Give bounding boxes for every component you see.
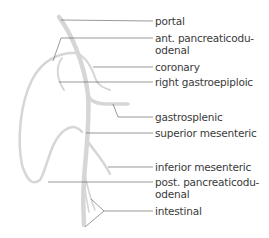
leader-lines — [48, 20, 153, 227]
intestinal-vessel-3 — [82, 180, 83, 215]
label-intestinal: intestinal — [155, 205, 202, 217]
label-ant-pancreaticoduodenal: ant. pancreaticodu- — [155, 32, 254, 44]
label-superior-mesenteric: superior mesenteric — [155, 127, 257, 139]
label-coronary: coronary — [155, 61, 200, 73]
leader-gastrosplenic — [113, 104, 153, 117]
leader-ant-pancreaticoduodenal — [53, 38, 153, 61]
inferior-mesenteric-vessel — [87, 140, 110, 174]
label-post-pancreaticoduodenal-line2: odenal — [155, 188, 189, 200]
gastrosplenic-vessel — [89, 97, 128, 104]
pancreaticoduodenal-arcade — [20, 53, 82, 182]
label-inferior-mesenteric: inferior mesenteric — [155, 161, 251, 173]
vessels — [20, 17, 128, 225]
right-gastroepiploic-vessel — [58, 58, 64, 90]
leader-intestinal — [85, 199, 153, 227]
leader-portal — [61, 20, 153, 21]
label-post-pancreaticoduodenal: post. pancreaticodu- — [155, 176, 259, 188]
label-portal: portal — [155, 15, 185, 27]
label-gastrosplenic: gastrosplenic — [155, 111, 222, 123]
label-right-gastroepiploic: right gastroepiploic — [155, 76, 253, 88]
intestinal-vessel-1 — [85, 175, 95, 210]
portal-vein-trunk — [59, 17, 89, 225]
label-ant-pancreaticoduodenal-line2: odenal — [155, 44, 189, 56]
